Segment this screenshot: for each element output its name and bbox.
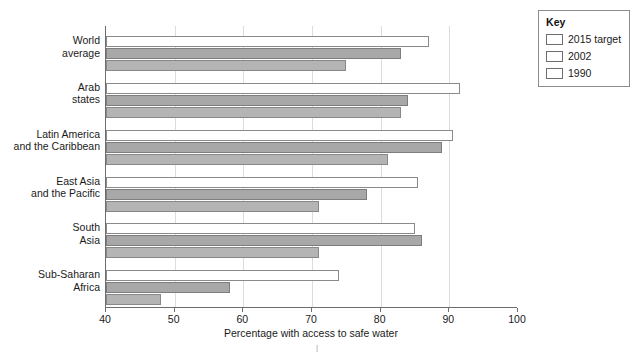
legend-box: Key 2015 target 2002 1990 (538, 10, 630, 87)
x-axis-tick (311, 308, 312, 312)
category-label: Latin Americaand the Caribbean (0, 128, 100, 153)
bar-2002 (106, 282, 230, 293)
bar-2015-target (106, 177, 418, 188)
category-label: East Asiaand the Pacific (0, 175, 100, 200)
category-label: Arabstates (0, 81, 100, 106)
legend-swatch-2002 (546, 51, 563, 62)
legend-label-1990: 1990 (568, 67, 591, 79)
bar-2015-target (106, 130, 453, 141)
x-axis-tick (380, 308, 381, 312)
x-axis-tick-label: 50 (168, 313, 180, 325)
bar-group (106, 81, 517, 128)
x-axis-title: Percentage with access to safe water (105, 327, 517, 339)
x-axis-tick-label: 100 (508, 313, 526, 325)
legend-item-2002: 2002 (546, 50, 623, 62)
bar-group (106, 128, 517, 175)
bar-1990 (106, 201, 319, 212)
x-axis-tick-label: 90 (442, 313, 454, 325)
bar-1990 (106, 247, 319, 258)
bar-2002 (106, 235, 422, 246)
bar-2002 (106, 48, 401, 59)
x-axis: 405060708090100 (105, 307, 517, 308)
bar-1990 (106, 154, 388, 165)
bar-2002 (106, 189, 367, 200)
bar-2015-target (106, 83, 460, 94)
category-label: SouthAsia (0, 221, 100, 246)
x-axis-tick-label: 40 (99, 313, 111, 325)
x-axis-tick (105, 308, 106, 312)
bar-2002 (106, 142, 442, 153)
bar-group (106, 175, 517, 222)
legend-label-2002: 2002 (568, 50, 591, 62)
bar-1990 (106, 294, 161, 305)
bar-group (106, 221, 517, 268)
x-axis-tick (242, 308, 243, 312)
x-axis-tick-label: 80 (374, 313, 386, 325)
chart-screenshot: { "legend": { "title": "Key", "entries":… (0, 0, 640, 354)
bar-2015-target (106, 36, 429, 47)
category-axis-labels: WorldaverageArabstatesLatin Americaand t… (0, 26, 100, 307)
category-label: Worldaverage (0, 34, 100, 59)
bar-2015-target (106, 270, 339, 281)
plot-area (105, 26, 517, 307)
legend-label-2015-target: 2015 target (568, 33, 621, 45)
bar-1990 (106, 60, 346, 71)
category-label: Sub-SaharanAfrica (0, 268, 100, 293)
bar-1990 (106, 107, 401, 118)
x-axis-tick (517, 308, 518, 312)
x-axis-tick (448, 308, 449, 312)
x-axis-tick (174, 308, 175, 312)
x-axis-tick-label: 60 (236, 313, 248, 325)
bar-2002 (106, 95, 408, 106)
legend-item-1990: 1990 (546, 67, 623, 79)
legend-swatch-2015-target (546, 34, 563, 45)
bar-2015-target (106, 223, 415, 234)
figure-mark: | (316, 343, 318, 352)
legend-swatch-1990 (546, 68, 563, 79)
legend-item-2015-target: 2015 target (546, 33, 623, 45)
legend-title: Key (546, 16, 623, 28)
bar-group (106, 34, 517, 81)
x-axis-tick-label: 70 (305, 313, 317, 325)
bar-groups (106, 26, 517, 307)
